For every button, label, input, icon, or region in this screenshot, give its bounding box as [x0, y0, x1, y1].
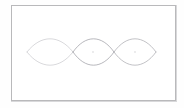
lens-chain-drawing: [0, 0, 184, 108]
lens-left-upper-arc: [27, 39, 73, 52]
lens-middle-lower-arc: [73, 52, 114, 65]
figure-canvas: [0, 0, 184, 108]
lens-right-upper-arc: [114, 39, 156, 52]
lens-right-lower-arc: [114, 52, 156, 65]
lens-group: [27, 39, 156, 66]
lens-right-center-mark: [134, 51, 136, 53]
lens-middle-center-mark: [92, 51, 94, 53]
lens-left-lower-arc: [27, 52, 73, 65]
lens-middle-upper-arc: [73, 39, 114, 52]
